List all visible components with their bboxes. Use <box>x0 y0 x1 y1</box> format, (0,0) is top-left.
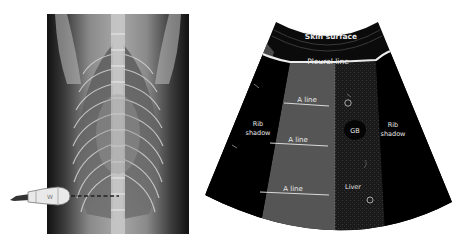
label-gb: GB <box>350 127 360 135</box>
ultrasound-schematic: Skin surface Pleural line A line A line … <box>198 0 465 251</box>
label-skin-surface: Skin surface <box>305 32 357 41</box>
label-rib-shadow-left-2: shadow <box>246 129 272 137</box>
label-liver: Liver <box>345 183 361 191</box>
label-a-line-3: A line <box>283 185 303 193</box>
probe-mark: W <box>47 193 53 200</box>
label-a-line-2: A line <box>288 136 308 144</box>
label-rib-shadow-left: Rib <box>253 120 263 128</box>
ultrasound-fan: Skin surface Pleural line A line A line … <box>198 0 465 251</box>
label-rib-shadow-right: Rib <box>388 121 398 129</box>
ultrasound-probe-icon: W <box>10 187 70 205</box>
label-rib-shadow-right-2: shadow <box>381 130 407 138</box>
probe-overlay: W <box>0 180 125 220</box>
label-pleural-line: Pleural line <box>307 57 349 66</box>
label-a-line-1: A line <box>297 96 317 104</box>
